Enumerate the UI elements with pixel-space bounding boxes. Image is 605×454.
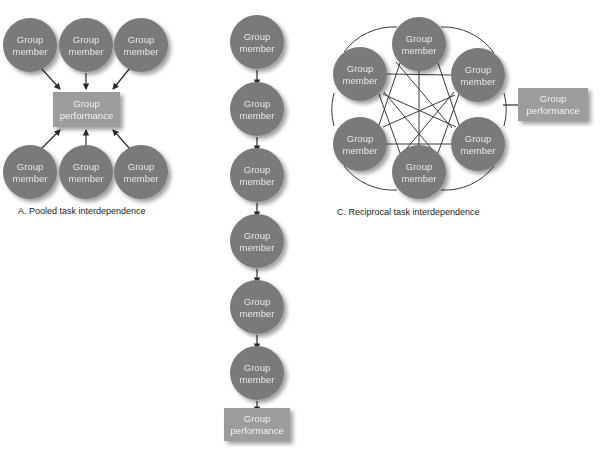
arc-c-lower-left-to-upper-left — [332, 93, 334, 126]
member-a-bottom-center-circle — [59, 145, 113, 199]
member-b-2-label-line2: member — [240, 110, 275, 121]
member-b-3-label-line2: member — [240, 176, 275, 187]
member-a-top-center-circle — [59, 18, 113, 72]
member-a-bottom-right-label-line1: Group — [128, 161, 154, 172]
member-a-top-right-label-line1: Group — [128, 34, 154, 45]
performance-box-c-label-line1: Group — [540, 93, 566, 104]
member-c-bottom: Group member — [392, 145, 446, 199]
panel-pooled-task-interdependence: Group performance Group member Group mem… — [3, 18, 168, 216]
member-c-lower-right-label-line2: member — [461, 145, 496, 156]
performance-box-b-label-line2: performance — [230, 425, 283, 436]
performance-box-a-label-line2: performance — [60, 110, 113, 121]
member-a-bottom-center-label-line2: member — [69, 173, 104, 184]
member-b-6: Group member — [230, 346, 284, 400]
member-c-upper-right: Group member — [451, 48, 505, 102]
member-c-upper-left-label-line2: member — [343, 75, 378, 86]
member-c-top: Group member — [392, 17, 446, 71]
performance-box-a: Group performance — [53, 92, 120, 127]
performance-box-b-label-line1: Group — [244, 413, 270, 424]
member-b-2-label-line1: Group — [244, 98, 270, 109]
member-a-bottom-center: Group member — [59, 145, 113, 199]
member-b-5-circle — [230, 280, 284, 334]
member-b-5-label-line2: member — [240, 308, 275, 319]
arrow-a-bottom-left-to-box — [41, 130, 60, 149]
member-a-top-left-label-line1: Group — [17, 34, 43, 45]
member-c-bottom-label-line2: member — [402, 173, 437, 184]
member-c-bottom-label-line1: Group — [406, 161, 432, 172]
member-c-lower-left: Group member — [333, 117, 387, 171]
panel-reciprocal-task-interdependence: Group member Group member Group member G… — [332, 17, 588, 217]
member-b-2-circle — [230, 82, 284, 136]
caption-panel-a: A. Pooled task interdependence — [18, 206, 146, 216]
member-a-top-right-label-line2: member — [124, 46, 159, 57]
member-b-2: Group member — [230, 82, 284, 136]
member-c-lower-right: Group member — [451, 117, 505, 171]
member-a-bottom-right-label-line2: member — [124, 173, 159, 184]
member-a-top-center: Group member — [59, 18, 113, 72]
member-a-top-left: Group member — [3, 18, 57, 72]
member-c-upper-right-circle — [451, 48, 505, 102]
member-a-top-right-circle — [114, 18, 168, 72]
member-b-1-label-line2: member — [240, 43, 275, 54]
arc-c-upper-right-to-lower-right — [504, 93, 506, 126]
member-a-bottom-right: Group member — [114, 145, 168, 199]
caption-panel-c: C. Reciprocal task interdependence — [337, 207, 480, 217]
member-b-3-label-line1: Group — [244, 164, 270, 175]
member-b-5: Group member — [230, 280, 284, 334]
member-b-5-label-line1: Group — [244, 296, 270, 307]
member-b-1: Group member — [230, 15, 284, 69]
member-b-6-label-line1: Group — [244, 362, 270, 373]
member-a-top-center-label-line1: Group — [73, 34, 99, 45]
performance-box-c: Group performance — [518, 88, 588, 121]
member-c-top-circle — [392, 17, 446, 71]
panel-sequential-task-interdependence: Group member Group member Group member G… — [224, 15, 290, 441]
member-c-lower-left-label-line1: Group — [347, 133, 373, 144]
member-c-upper-left: Group member — [333, 47, 387, 101]
member-b-4-label-line2: member — [240, 242, 275, 253]
member-a-top-left-circle — [3, 18, 57, 72]
member-c-upper-right-label-line2: member — [461, 76, 496, 87]
member-b-4: Group member — [230, 214, 284, 268]
member-c-lower-left-label-line2: member — [343, 145, 378, 156]
member-a-top-right: Group member — [114, 18, 168, 72]
member-c-lower-right-circle — [451, 117, 505, 171]
member-b-1-label-line1: Group — [244, 31, 270, 42]
member-b-4-circle — [230, 214, 284, 268]
performance-box-c-label-line2: performance — [526, 105, 579, 116]
member-b-3: Group member — [230, 148, 284, 202]
task-interdependence-figure: Group performance Group member Group mem… — [0, 0, 605, 454]
member-c-lower-left-circle — [333, 117, 387, 171]
member-b-1-circle — [230, 15, 284, 69]
arc-c-top-to-upper-right — [441, 27, 494, 53]
member-b-6-label-line2: member — [240, 374, 275, 385]
member-c-upper-right-label-line1: Group — [465, 64, 491, 75]
link-c-top-cross-left — [396, 62, 452, 128]
performance-box-b: Group performance — [224, 408, 290, 441]
member-a-bottom-left: Group member — [3, 145, 57, 199]
member-c-upper-left-circle — [333, 47, 387, 101]
performance-box-a-label-line1: Group — [73, 98, 99, 109]
member-c-bottom-circle — [392, 145, 446, 199]
member-b-3-circle — [230, 148, 284, 202]
member-a-bottom-left-label-line1: Group — [17, 161, 43, 172]
member-c-lower-right-label-line1: Group — [465, 133, 491, 144]
member-b-4-label-line1: Group — [244, 230, 270, 241]
arrow-a-top-right-to-box — [113, 68, 130, 89]
arrow-a-bottom-right-to-box — [113, 130, 130, 149]
arrow-a-top-left-to-box — [41, 68, 60, 89]
member-a-bottom-left-circle — [3, 145, 57, 199]
member-a-bottom-left-label-line2: member — [13, 173, 48, 184]
member-c-upper-left-label-line1: Group — [347, 63, 373, 74]
member-a-top-center-label-line2: member — [69, 46, 104, 57]
member-a-bottom-right-circle — [114, 145, 168, 199]
member-a-bottom-center-label-line1: Group — [73, 161, 99, 172]
member-c-top-label-line1: Group — [406, 33, 432, 44]
member-a-top-left-label-line2: member — [13, 46, 48, 57]
member-b-6-circle — [230, 346, 284, 400]
member-c-top-label-line2: member — [402, 45, 437, 56]
